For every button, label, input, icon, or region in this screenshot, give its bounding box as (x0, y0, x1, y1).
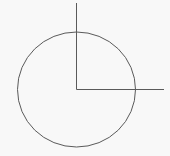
diagram-canvas (0, 0, 170, 156)
